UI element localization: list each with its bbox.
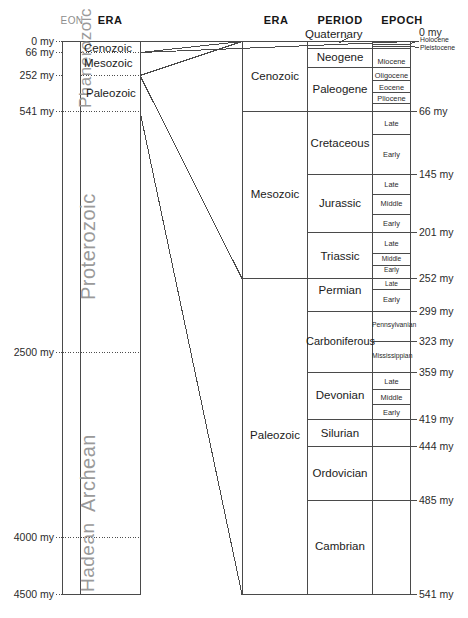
right-period-carboniferous: Carboniferous: [306, 336, 374, 347]
right-period-quaternary: Quaternary: [305, 29, 363, 41]
eon-label-archean: Archean: [77, 434, 100, 512]
right-period-cambrian: Cambrian: [308, 541, 372, 553]
right-epoch-jurassic-middle: Middle: [373, 200, 410, 207]
right-epoch-triassic-early: Early: [373, 267, 410, 274]
right-epoch-devonian-late: Late: [373, 378, 410, 385]
right-period-silurian: Silurian: [308, 428, 372, 440]
left-tick-label-4000: 4000 my: [0, 532, 54, 543]
header-epoch: EPOCH: [371, 15, 433, 26]
left-tick-label-0: 0 my: [0, 36, 54, 47]
connector-paleozoic-bottom: [140, 112, 242, 595]
right-epoch-permian-late: Late: [373, 281, 410, 288]
eon-label-hadean: Hadean: [77, 522, 99, 592]
right-tick-label-145: 145 my: [419, 169, 453, 180]
header-era-right: ERA: [253, 15, 299, 26]
right-tick-label-419: 419 my: [419, 414, 453, 425]
left-tick-label-2500: 2500 my: [0, 347, 54, 358]
callout-pleistocene: [410, 46, 419, 48]
geologic-time-scale-figure: EON ERA ERA PERIOD EPOCH 0 my 66 my 252 …: [0, 0, 468, 618]
right-tick-label-485: 485 my: [419, 495, 453, 506]
left-era-cenozoic: Cenozoic: [84, 43, 132, 55]
right-era-mesozoic: Mesozoic: [243, 189, 307, 201]
right-era-paleozoic: Paleozoic: [243, 430, 307, 442]
right-epoch-oligocene: Oligocene: [373, 72, 410, 79]
left-tick-label-541: 541 my: [0, 106, 54, 117]
right-epoch-miocene: Miocene: [373, 58, 410, 65]
right-tick-label-444: 444 my: [419, 441, 453, 452]
right-period-permian: Permian: [308, 285, 372, 297]
eon-label-proterozoic: Proterozoic: [77, 193, 100, 300]
right-epoch-holocene: Holocene: [420, 37, 449, 44]
right-period-neogene: Neogene: [308, 52, 372, 64]
right-epoch-jurassic-late: Late: [373, 181, 410, 188]
right-tick-marks: [410, 42, 417, 595]
right-epoch-jurassic-early: Early: [373, 220, 410, 227]
left-era-paleozoic: Paleozoic: [86, 88, 136, 100]
connector-cenozoic-bottom: [140, 42, 410, 53]
header-period: PERIOD: [308, 15, 372, 26]
right-period-triassic: Triassic: [308, 251, 372, 263]
right-epoch-pliocene: Pliocene: [373, 95, 410, 102]
right-epoch-devonian-middle: Middle: [373, 394, 410, 401]
left-era-mesozoic: Mesozoic: [84, 58, 133, 70]
right-epoch-pleistocene: Pleistocene: [420, 45, 455, 52]
left-tick-label-66: 66 my: [0, 47, 54, 58]
right-tick-label-299: 299 my: [419, 306, 453, 317]
right-epoch-cretaceous-late: Late: [373, 120, 410, 127]
right-period-devonian: Devonian: [308, 390, 372, 402]
right-epoch-pennsylvanian: Pennsylvanian: [372, 322, 411, 329]
right-tick-label-66: 66 my: [419, 106, 448, 117]
right-epoch-cretaceous-early: Early: [373, 151, 410, 158]
right-epoch-triassic-late: Late: [373, 240, 410, 247]
right-epoch-triassic-middle: Middle: [373, 256, 410, 263]
right-tick-label-201: 201 my: [419, 227, 453, 238]
right-epoch-devonian-early: Early: [373, 409, 410, 416]
right-tick-label-541: 541 my: [419, 589, 453, 600]
right-tick-label-252: 252 my: [419, 273, 453, 284]
right-period-paleogene: Paleogene: [308, 84, 372, 96]
right-epoch-mississippian: Mississippian: [372, 353, 411, 360]
right-period-cretaceous: Cretaceous: [308, 138, 372, 150]
right-epoch-eocene: Eocene: [373, 84, 410, 91]
right-tick-label-0: 0 my: [419, 27, 442, 38]
right-era-cenozoic: Cenozoic: [243, 71, 307, 83]
connector-mesozoic-bottom: [140, 76, 242, 279]
right-period-ordovician: Ordovician: [308, 468, 372, 480]
left-tick-label-252: 252 my: [0, 70, 54, 81]
right-period-jurassic: Jurassic: [308, 198, 372, 210]
right-epoch-permian-early: Early: [373, 296, 410, 303]
left-tick-label-4500: 4500 my: [0, 589, 54, 600]
right-tick-label-323: 323 my: [419, 336, 453, 347]
chart-linework: [0, 0, 468, 618]
right-tick-label-359: 359 my: [419, 367, 453, 378]
